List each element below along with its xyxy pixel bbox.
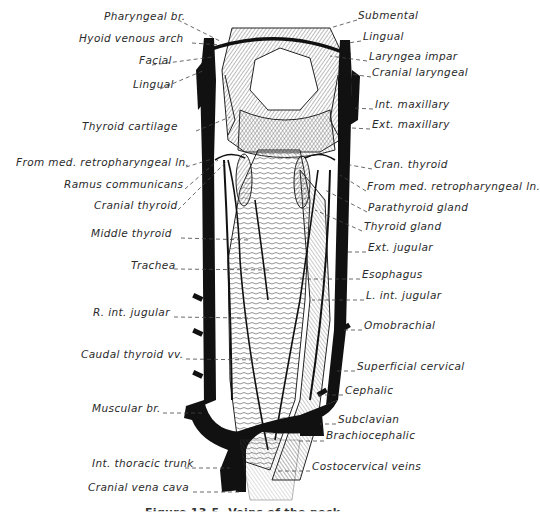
leader-line [178, 162, 226, 210]
label-int-maxillary: Int. maxillary [375, 98, 450, 110]
label-cranial-thyroid: Cranial thyroid [94, 199, 178, 211]
leader-line [350, 165, 372, 169]
label-ext-maxillary: Ext. maxillary [372, 118, 450, 130]
label-lingual-right: Lingual [363, 30, 404, 42]
leader-line [330, 20, 357, 28]
label-caudal-thyroid-vv: Caudal thyroid vv. [81, 348, 184, 360]
label-omobrachial: Omobrachial [364, 319, 435, 331]
costocervical-area [240, 440, 300, 500]
label-cranial-vena-cava: Cranial vena cava [88, 481, 189, 493]
label-thyroid-cartilage: Thyroid cartilage [82, 120, 178, 132]
leader-line [352, 128, 370, 129]
label-thyroid-gland: Thyroid gland [364, 220, 441, 232]
label-lingual-left: Lingual [133, 78, 174, 90]
label-parathyroid-gland: Parathyroid gland [368, 201, 468, 213]
label-l-int-jugular: L. int. jugular [366, 289, 441, 301]
label-superficial-cervical: Superficial cervical [357, 360, 465, 372]
label-submental: Submental [358, 9, 418, 21]
label-r-int-jugular: R. int. jugular [93, 306, 170, 318]
label-cran-thyroid: Cran. thyroid [374, 158, 448, 170]
label-from-med-retropharyngeal-ln-left: From med. retropharyngeal ln. [16, 156, 189, 168]
label-facial: Facial [139, 54, 172, 66]
label-ext-jugular: Ext. jugular [368, 241, 433, 253]
right-external-jugular [196, 38, 216, 405]
label-cephalic: Cephalic [345, 384, 393, 396]
leader-line [178, 20, 222, 42]
label-brachiocephalic: Brachiocephalic [326, 429, 415, 441]
label-ramus-communicans: Ramus communicans [64, 178, 183, 190]
label-subclavian: Subclavian [338, 413, 399, 425]
label-costocervical-veins: Costocervical veins [312, 460, 421, 472]
label-pharyngeal-br: Pharyngeal br. [104, 10, 185, 22]
label-cranial-laryngeal: Cranial laryngeal [372, 66, 468, 78]
label-muscular-br: Muscular br. [92, 402, 161, 414]
label-hyoid-venous-arch: Hyoid venous arch [79, 32, 184, 44]
label-int-thoracic-trunk: Int. thoracic trunk [92, 457, 194, 469]
label-laryngea-impar: Laryngea impar [369, 50, 458, 62]
label-trachea: Trachea [131, 259, 175, 271]
label-esophagus: Esophagus [362, 268, 423, 280]
label-from-med-retropharyngeal-ln-right: From med. retropharyngeal ln. [367, 180, 540, 192]
label-middle-thyroid: Middle thyroid [91, 227, 172, 239]
